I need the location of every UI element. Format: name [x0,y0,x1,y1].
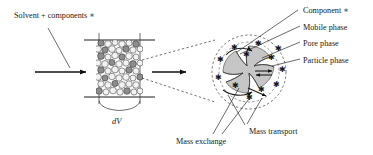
magnify-line-bottom [142,78,215,102]
label-particle-phase: Particle phase [303,56,349,65]
inlet-label: Solvent + components ∗ [14,11,95,20]
dv-label: dV [112,116,123,126]
diagram-canvas: Solvent + components ∗ [0,0,373,155]
svg-text:✱: ✱ [279,65,286,74]
svg-text:✱: ✱ [215,73,222,82]
label-pore-phase: Pore phase [303,39,339,48]
svg-text:✱: ✱ [275,44,282,53]
leader-mobile-phase [240,26,300,54]
label-mass-exchange: Mass exchange [176,137,227,146]
dv-brace-icon [99,101,140,111]
inlet-leader-line [48,28,70,68]
svg-text:✱: ✱ [232,81,239,90]
figure-root: Solvent + components ∗ [0,0,373,155]
leader-mass-exchange [213,88,239,134]
label-mass-transport: Mass transport [249,127,298,136]
label-component: Component ∗ [303,6,349,15]
leader-mass-exchange-2 [222,95,252,134]
magnify-line-top [142,40,215,60]
svg-text:✱: ✱ [217,55,224,64]
label-mobile-phase: Mobile phase [303,23,348,32]
svg-text:✱: ✱ [273,80,280,89]
packed-bed [95,40,144,96]
